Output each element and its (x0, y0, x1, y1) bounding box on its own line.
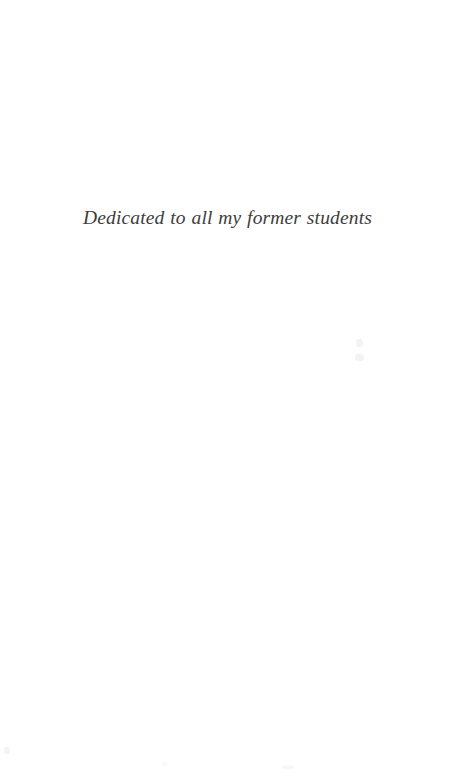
scan-speck (4, 747, 10, 754)
scan-speck (355, 338, 364, 347)
scan-speck (355, 353, 365, 361)
dedication-text: Dedicated to all my former students (83, 205, 372, 231)
dedication-page: Dedicated to all my former students (0, 0, 455, 770)
scan-speck (282, 765, 294, 769)
dedication-block: Dedicated to all my former students (0, 205, 455, 231)
scan-speck (162, 762, 167, 766)
